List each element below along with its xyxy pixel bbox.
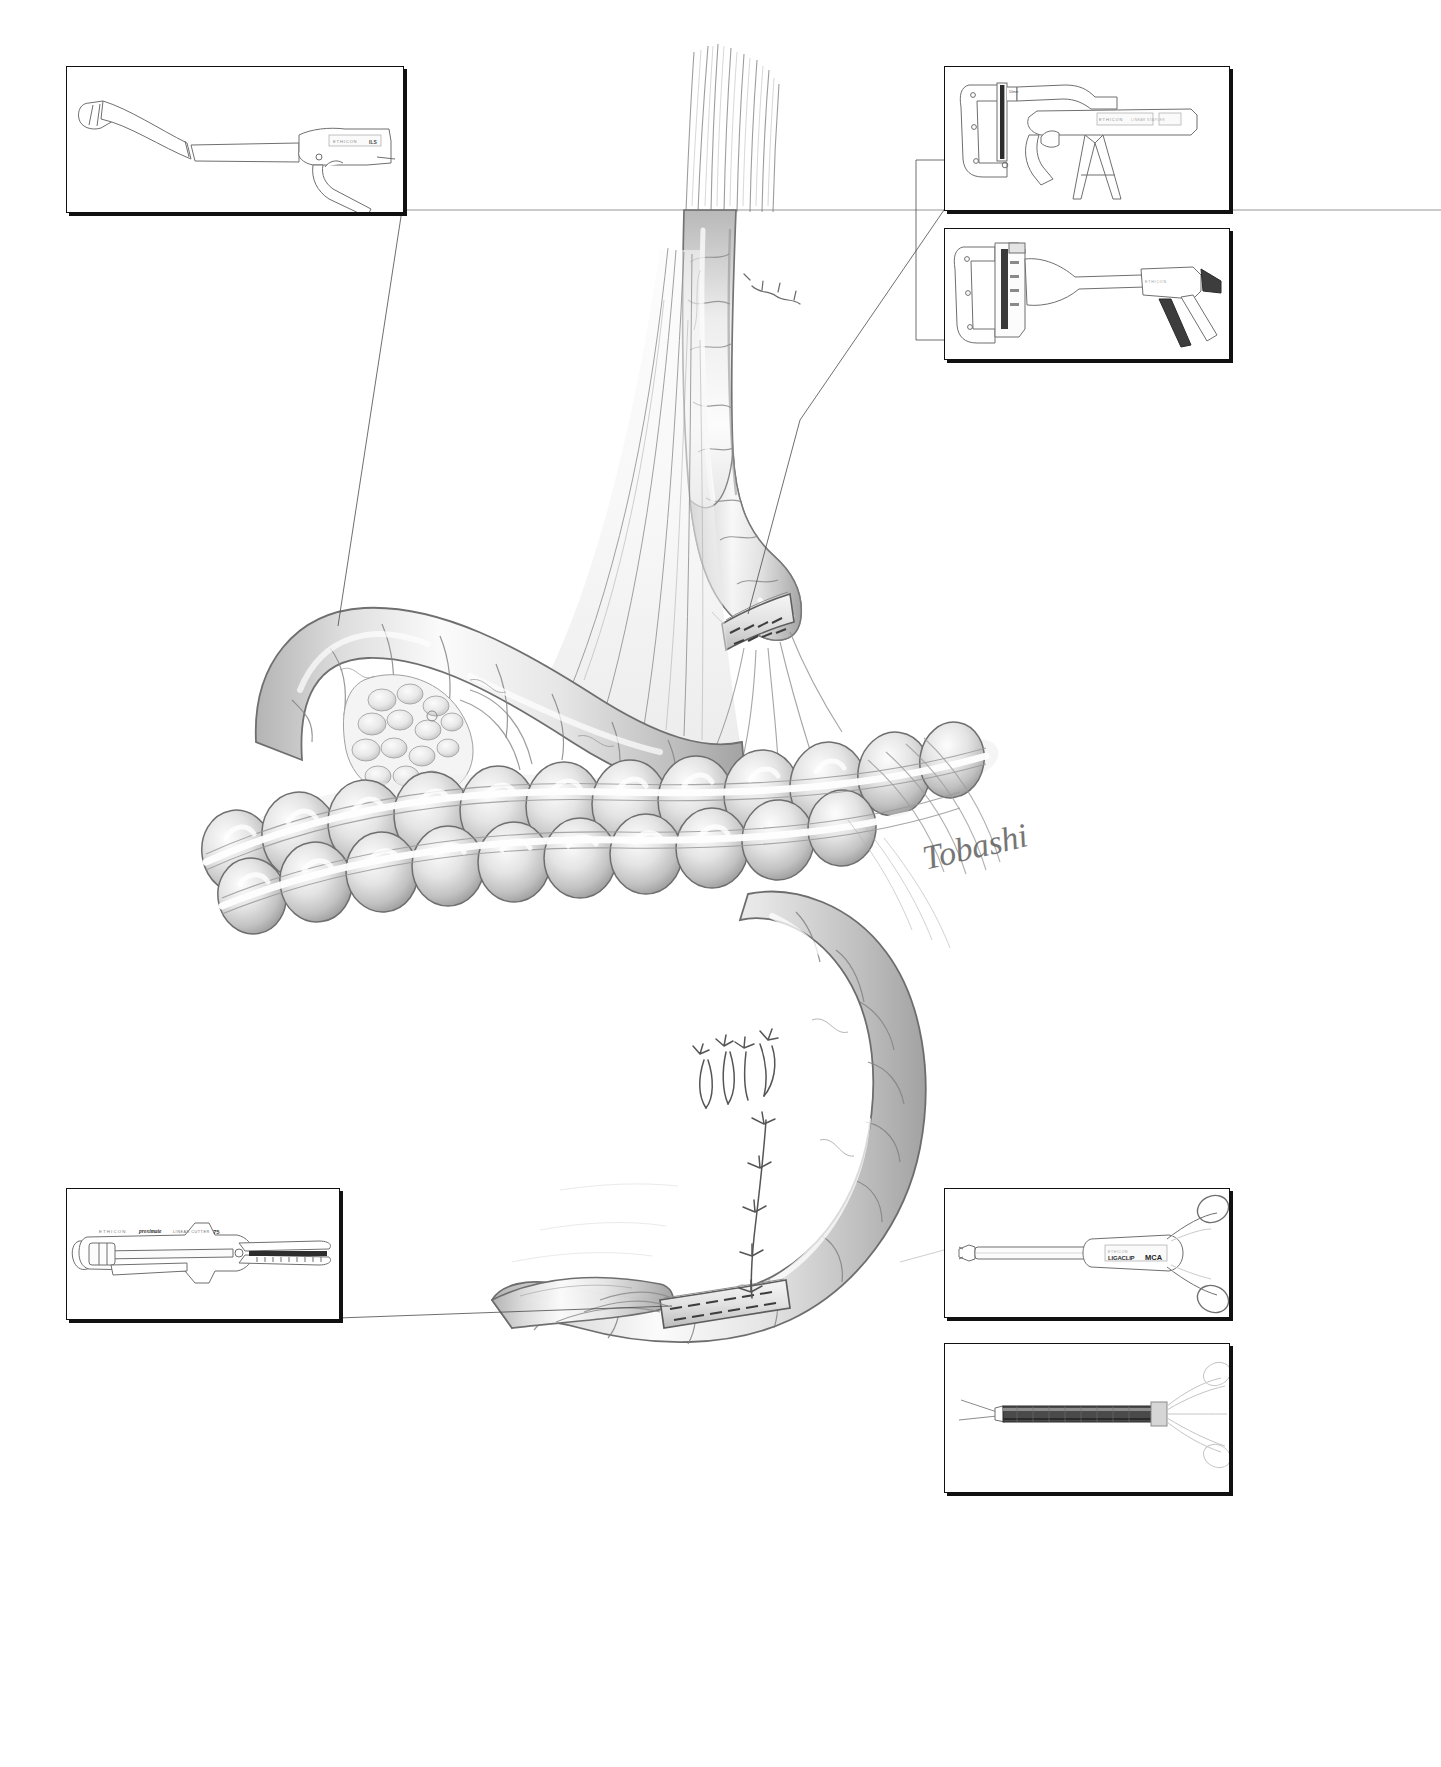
- open-linear-stapler-drawing: ETHICON: [945, 229, 1229, 359]
- ligaclip-applier-drawing: ETHICON LIGACLIP MCA: [945, 1189, 1229, 1317]
- inset-top-left[interactable]: ETHICON ILS: [66, 66, 404, 213]
- inset-lower-right[interactable]: ETHICON LIGACLIP MCA: [944, 1188, 1230, 1318]
- inset-lower-right-brand: ETHICON: [1108, 1250, 1128, 1254]
- dissecting-forceps-drawing: [945, 1344, 1229, 1492]
- inset-lower-right-line: LIGACLIP: [1108, 1255, 1135, 1261]
- inset-top-right-tip-mark: 50mm: [1009, 90, 1019, 94]
- inset-bottom-left-line: proximate: [138, 1228, 162, 1234]
- linear-cutter-drawing: ETHICON proximate LINEAR CUTTER 75: [67, 1189, 339, 1319]
- inset-top-left-brand: ETHICON: [333, 139, 357, 144]
- inset-bottom-right[interactable]: [944, 1343, 1230, 1493]
- mesentery-fan: [536, 248, 842, 762]
- proximal-limb-suture: [744, 274, 800, 304]
- ground-shading: [512, 1184, 678, 1262]
- inset-bottom-left[interactable]: ETHICON proximate LINEAR CUTTER 75: [66, 1188, 340, 1320]
- linear-stapler-drawing: ETHICON LINEAR STAPLER 50mm: [945, 67, 1229, 210]
- circular-stapler-drawing: ETHICON ILS: [67, 67, 403, 212]
- inset-bottom-left-type: LINEAR CUTTER: [173, 1230, 210, 1234]
- inset-top-right-brand: ETHICON: [1099, 117, 1123, 122]
- illustration-page: ETHICON ILS: [0, 0, 1441, 1767]
- inset-mid-right-brand: ETHICON: [1145, 280, 1167, 284]
- inset-top-left-model: ILS: [369, 139, 377, 145]
- inset-lower-right-model: MCA: [1145, 1253, 1163, 1262]
- interrupted-sutures: [693, 1029, 778, 1298]
- inset-bottom-left-size: 75: [213, 1229, 220, 1235]
- inset-mid-right[interactable]: ETHICON: [944, 228, 1230, 360]
- inset-top-right-model: LINEAR STAPLER: [1131, 118, 1165, 122]
- inset-top-right[interactable]: ETHICON LINEAR STAPLER 50mm: [944, 66, 1230, 211]
- inset-bottom-left-brand: ETHICON: [99, 1229, 126, 1234]
- distal-bowel-loop: [492, 892, 926, 1344]
